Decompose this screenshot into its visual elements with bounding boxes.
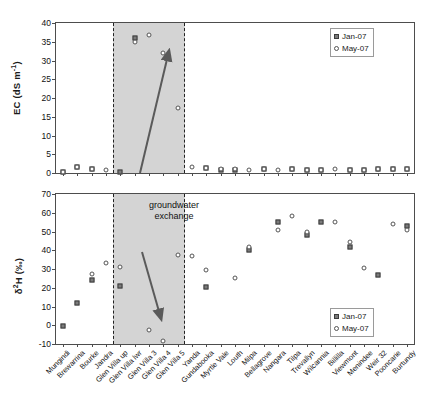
x-axis-tick-labels: MungindiBrewarrinaBourkeJandraGlen Villa… [0,0,431,416]
figure-container: EC (dS m-1) 0510152025303540 Jan-07 May-… [0,0,431,416]
